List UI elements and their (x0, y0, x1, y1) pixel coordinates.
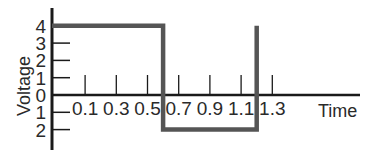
x-tick-label: 0.7 (165, 98, 191, 119)
voltage-time-chart: 4321012 0.10.30.50.70.91.11.3 Voltage Ti… (0, 0, 366, 155)
y-axis-title: Voltage (14, 56, 34, 116)
x-tick-label: 1.3 (259, 98, 285, 119)
x-tick-label: 0.9 (197, 98, 223, 119)
y-tick-label: 2 (35, 120, 46, 141)
x-tick-label: 0.1 (72, 98, 98, 119)
x-tick-label: 1.1 (228, 98, 254, 119)
x-axis-ticks: 0.10.30.50.70.91.11.3 (72, 75, 286, 119)
x-tick-label: 0.5 (134, 98, 160, 119)
x-axis-title: Time (318, 101, 357, 121)
x-tick-label: 0.3 (103, 98, 129, 119)
